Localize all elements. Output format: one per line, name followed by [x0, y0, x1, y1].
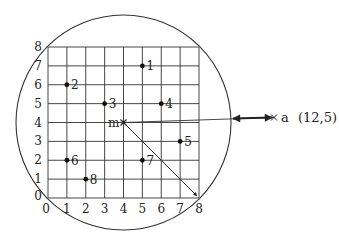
diagram-canvas: 012345678 012345678 12345678 m a(12,5) — [0, 0, 339, 243]
x-tick-label: 0 — [42, 202, 50, 216]
x-tick-label: 8 — [195, 202, 203, 216]
point-dot-icon — [140, 63, 145, 68]
distance-arrow — [233, 118, 272, 119]
x-axis-tick-labels: 012345678 — [42, 202, 203, 216]
y-tick-label: 0 — [34, 189, 42, 203]
query-point-coords: (12,5) — [298, 110, 337, 125]
x-tick-label: 1 — [63, 202, 71, 216]
point-label: 4 — [165, 97, 173, 111]
point-label: 2 — [71, 78, 79, 92]
point-dot-icon — [102, 101, 107, 106]
y-tick-label: 5 — [34, 97, 42, 111]
radius-line — [124, 123, 198, 197]
point-label: 7 — [146, 154, 154, 168]
y-tick-label: 1 — [34, 172, 42, 186]
x-tick-label: 5 — [139, 202, 147, 216]
y-tick-label: 8 — [34, 40, 42, 54]
point-label: 3 — [109, 97, 117, 111]
point-label: 5 — [184, 135, 192, 149]
point-dot-icon — [178, 139, 183, 144]
point-dot-icon — [83, 177, 88, 182]
point-dot-icon — [159, 101, 164, 106]
x-tick-label: 6 — [157, 202, 165, 216]
point-dot-icon — [64, 82, 69, 87]
y-axis-tick-labels: 012345678 — [34, 40, 42, 203]
y-tick-label: 7 — [34, 59, 42, 73]
point-label: 1 — [146, 59, 154, 73]
y-tick-label: 4 — [34, 116, 42, 130]
x-tick-label: 7 — [176, 202, 184, 216]
y-tick-label: 6 — [34, 78, 42, 92]
nearest-neighbor-diagram: 012345678 012345678 12345678 m a(12,5) — [0, 0, 339, 243]
center-point-label: m — [108, 116, 120, 130]
query-point-label: a — [281, 110, 289, 125]
y-tick-label: 3 — [34, 134, 42, 148]
point-label: 8 — [90, 173, 98, 187]
point-dot-icon — [140, 158, 145, 163]
data-points: 12345678 — [64, 59, 191, 186]
x-tick-label: 4 — [120, 202, 128, 216]
x-tick-label: 3 — [101, 202, 109, 216]
point-label: 6 — [71, 154, 79, 168]
y-tick-label: 2 — [34, 153, 42, 167]
radius-arrow — [124, 123, 198, 197]
x-tick-label: 2 — [82, 202, 90, 216]
point-dot-icon — [64, 158, 69, 163]
